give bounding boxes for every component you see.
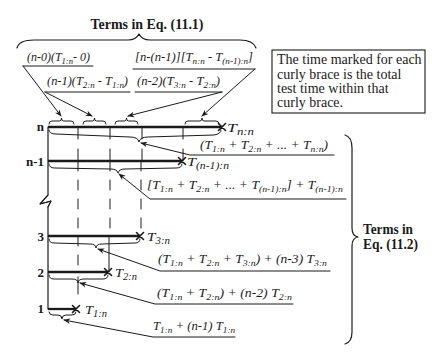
eq-11-2-section: Terms in Eq. (11.2) bbox=[345, 135, 418, 344]
axis-break-icon bbox=[40, 195, 51, 207]
failure-time-guides bbox=[78, 127, 183, 294]
failure-time-1: T1:n bbox=[85, 302, 107, 319]
test-time-diagram: Terms in Eq. (11.1) (n-0)(T1:n- 0) [n-(n… bbox=[0, 0, 447, 359]
failure-time-n: Tn:n bbox=[227, 120, 254, 137]
level-3: T3:n (T1:n + T2:n + T3:n) + (n-3) T3:n bbox=[48, 229, 330, 271]
failure-time-3: T3:n bbox=[147, 229, 170, 246]
eq-11-1-curly-brace bbox=[17, 34, 256, 48]
failure-time-2: T2:n bbox=[115, 265, 137, 282]
figure-canvas: Terms in Eq. (11.1) (n-0)(T1:n- 0) [n-(n… bbox=[0, 0, 447, 359]
level-2-term: (T1:n + T2:n) + (n-2) T2:n bbox=[157, 286, 292, 302]
level-n: Tn:n (T1:n + T2:n + ... + Tn:n) bbox=[48, 120, 334, 155]
level-label-3: 3 bbox=[38, 229, 45, 244]
level-label-n: n bbox=[37, 119, 45, 134]
level-label-2: 2 bbox=[38, 265, 45, 280]
level-label-1: 1 bbox=[38, 301, 45, 316]
eq-11-1-term-2-arrow bbox=[128, 92, 222, 116]
level-1: T1:n T1:n + (n-1) T1:n bbox=[48, 302, 235, 337]
note-line-1: The time marked for each bbox=[277, 52, 422, 67]
interval-brace-3 bbox=[115, 118, 138, 124]
note-line-3: test time within that bbox=[277, 81, 389, 96]
eq-11-2-title-line-2: Eq. (11.2) bbox=[363, 237, 418, 253]
eq-11-1-term-2: (n-2)(T3:n - T2:n) bbox=[137, 74, 220, 90]
level-label-n-1: n-1 bbox=[26, 154, 44, 169]
level-n-1-term: [T1:n + T2:n + ... + T(n-1):n] + T(n-1):… bbox=[147, 178, 343, 194]
interval-brace-2 bbox=[83, 118, 106, 124]
note-box: The time marked for each curly brace is … bbox=[272, 50, 425, 113]
level-n-brace bbox=[49, 130, 221, 142]
level-3-term: (T1:n + T2:n + T3:n) + (n-3) T3:n bbox=[158, 252, 327, 268]
note-line-4: curly brace. bbox=[277, 95, 343, 110]
eq-11-1-title: Terms in Eq. (11.1) bbox=[91, 17, 204, 33]
eq-11-1-term-0: (n-0)(T1:n- 0) bbox=[27, 50, 90, 66]
level-1-term: T1:n + (n-1) T1:n bbox=[153, 319, 235, 335]
eq-11-2-curly-brace bbox=[345, 135, 358, 344]
level-n-term: (T1:n + T2:n + ... + Tn:n) bbox=[200, 138, 328, 154]
level-n-1: T(n-1):n [T1:n + T2:n + ... + T(n-1):n] … bbox=[48, 154, 346, 199]
interval-brace-last bbox=[185, 118, 219, 124]
eq-11-2-title-line-1: Terms in bbox=[363, 222, 413, 237]
eq-11-1-section: Terms in Eq. (11.1) (n-0)(T1:n- 0) [n-(n… bbox=[17, 17, 256, 124]
eq-11-1-term-last: [n-(n-1)][Tn:n - T(n-1):n] bbox=[135, 50, 253, 66]
level-3-brace bbox=[49, 239, 140, 248]
eq-11-1-term-1: (n-1)(T2:n - T1:n) bbox=[47, 74, 128, 90]
note-line-2: curly brace is the total bbox=[277, 67, 402, 82]
failure-time-n-1: T(n-1):n bbox=[187, 154, 229, 172]
interval-brace-1 bbox=[49, 118, 74, 124]
level-n-1-brace bbox=[49, 164, 182, 173]
